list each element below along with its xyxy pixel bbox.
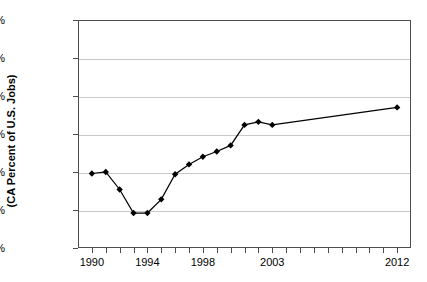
data-point-marker: [241, 122, 247, 128]
data-point-marker: [394, 104, 400, 110]
data-point-marker: [130, 210, 136, 216]
data-point-marker: [200, 154, 206, 160]
data-point-marker: [269, 122, 275, 128]
data-point-marker: [89, 170, 95, 176]
series-markers: [89, 104, 401, 216]
data-point-marker: [214, 148, 220, 154]
line-chart: (CA Percent of U.S. Jobs) 10.0%9.5%9.0%8…: [0, 0, 427, 282]
data-point-marker: [255, 119, 261, 125]
data-series-layer: [0, 0, 427, 282]
